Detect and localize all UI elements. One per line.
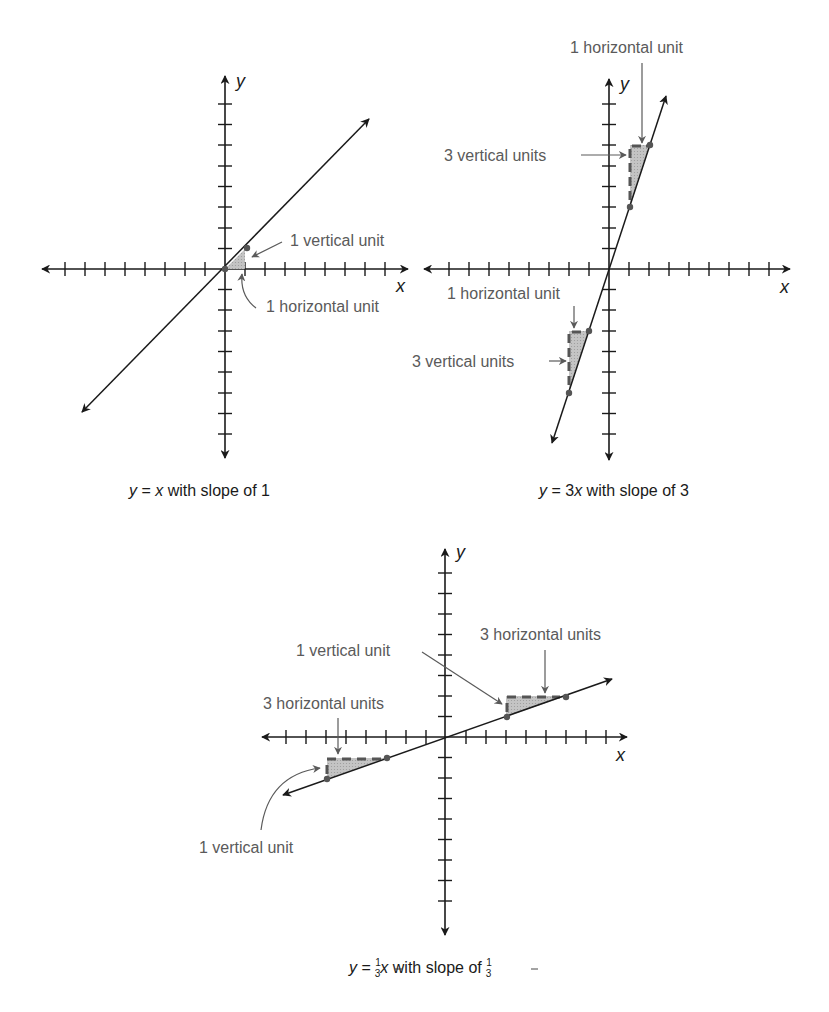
point-1-1 bbox=[244, 245, 250, 251]
point-origin bbox=[222, 266, 228, 272]
leader-horizontal-unit bbox=[242, 274, 256, 308]
caption-slope-1: y = x with slope of 1 bbox=[128, 482, 270, 499]
x-axis-label: x bbox=[779, 277, 790, 297]
annotation-top-horizontal: 3 horizontal units bbox=[480, 626, 601, 643]
annotation-top-vertical: 1 vertical unit bbox=[296, 642, 391, 659]
point-1-3 bbox=[627, 204, 633, 210]
graph-slope-one-third: y x 1 vertical unit 3 horizontal units 3… bbox=[199, 542, 627, 979]
point-neg3-neg1 bbox=[384, 755, 390, 761]
point-neg2-neg6 bbox=[566, 390, 572, 396]
x-axis-label: x bbox=[395, 276, 406, 296]
slope-figure: y x 1 vertical unit 1 horizontal unit y … bbox=[0, 0, 829, 1012]
point-neg1-neg3 bbox=[586, 328, 592, 334]
graph-slope-3: y x 1 horizontal unit 3 vertical units 1… bbox=[412, 39, 790, 499]
annotation-horizontal-unit: 1 horizontal unit bbox=[266, 298, 380, 315]
annotation-top-vertical: 3 vertical units bbox=[444, 147, 546, 164]
annotation-bottom-vertical: 1 vertical unit bbox=[199, 839, 294, 856]
annotation-vertical-unit: 1 vertical unit bbox=[290, 232, 385, 249]
caption-slope-one-third: y = 13x with slope of 13 bbox=[348, 957, 492, 979]
y-axis-label: y bbox=[234, 71, 246, 91]
annotation-bottom-horizontal: 3 horizontal units bbox=[263, 695, 384, 712]
graph-slope-1: y x 1 vertical unit 1 horizontal unit y … bbox=[42, 71, 408, 499]
leader-vertical-unit bbox=[252, 242, 282, 257]
annotation-top-horizontal: 1 horizontal unit bbox=[570, 39, 684, 56]
point-3-1 bbox=[504, 714, 510, 720]
y-axis-label: y bbox=[618, 74, 630, 94]
y-axis bbox=[438, 549, 452, 935]
point-2-6 bbox=[647, 142, 653, 148]
point-neg6-neg2 bbox=[324, 776, 330, 782]
leader-bottom-vertical bbox=[261, 768, 320, 830]
point-6-2 bbox=[563, 694, 569, 700]
y-axis-label: y bbox=[454, 542, 466, 562]
caption-slope-3: y = 3x with slope of 3 bbox=[538, 482, 689, 499]
rise-run-triangle bbox=[225, 249, 245, 269]
annotation-bottom-horizontal: 1 horizontal unit bbox=[447, 285, 561, 302]
leader-top-vertical bbox=[422, 652, 502, 704]
x-axis-label: x bbox=[615, 745, 626, 765]
annotation-bottom-vertical: 3 vertical units bbox=[412, 353, 514, 370]
